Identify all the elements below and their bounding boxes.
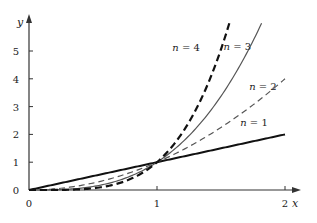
curve-label-n-3: n = 3 (224, 41, 252, 52)
curve-label-n-2: n = 2 (249, 81, 277, 92)
labels: n = 1n = 2n = 3n = 4 (172, 41, 276, 128)
x-axis-label: x (292, 197, 299, 210)
y-axis-arrow-icon (26, 14, 32, 23)
x-tick-label: 0 (26, 198, 32, 209)
y-axis-label: y (16, 16, 24, 29)
y-tick-label: 2 (13, 129, 19, 140)
x-axis-arrow-icon (292, 187, 301, 193)
x-tick-label: 2 (282, 198, 288, 209)
x-tick-label: 1 (154, 198, 160, 209)
curve-label-n-1: n = 1 (240, 117, 268, 128)
curve-label-n-4: n = 4 (172, 42, 200, 53)
y-tick-label: 5 (13, 46, 19, 57)
y-tick-label: 0 (13, 185, 19, 196)
power-functions-chart: 012012345xy n = 1n = 2n = 3n = 4 (0, 0, 317, 223)
y-tick-label: 4 (13, 74, 19, 85)
y-tick-label: 1 (13, 157, 19, 168)
y-tick-label: 3 (13, 102, 19, 113)
axes: 012012345xy (13, 14, 301, 210)
curve-n-2 (29, 79, 285, 190)
